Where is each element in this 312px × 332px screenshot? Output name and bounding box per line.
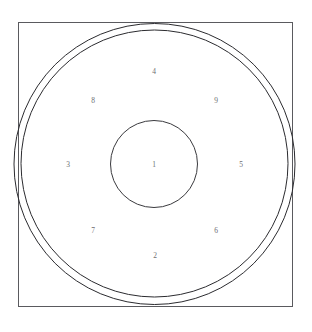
zone-label-4: 4 (152, 68, 156, 76)
zone-label-7: 7 (91, 227, 95, 235)
zone-label-6: 6 (214, 227, 218, 235)
zone-label-1: 1 (152, 161, 156, 169)
zone-label-9: 9 (214, 97, 218, 105)
zone-label-2: 2 (153, 252, 157, 260)
zone-label-8: 8 (91, 97, 95, 105)
zone-label-3: 3 (66, 161, 70, 169)
figure-container: 123456789 (0, 0, 312, 332)
zone-label-5: 5 (239, 161, 243, 169)
